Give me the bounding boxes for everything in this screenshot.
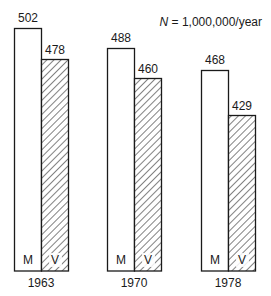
value-label-v-1970: 460 [138, 62, 158, 76]
category-label-1978: 1978 [215, 276, 242, 290]
value-label-m-1963: 502 [18, 11, 38, 25]
bar-m-1963 [15, 29, 42, 272]
value-label-v-1978: 429 [232, 99, 252, 113]
value-label-m-1970: 488 [111, 31, 131, 45]
sample-size-value: = 1,000,000/year [168, 15, 262, 29]
bar-group-1978: 468 429 M V 1978 [202, 53, 256, 290]
bar-v-1978 [229, 116, 256, 272]
sample-size-note: N = 1,000,000/year [160, 15, 262, 29]
category-label-1963: 1963 [28, 276, 55, 290]
series-label-v: V [144, 253, 152, 267]
series-label-v: V [51, 253, 59, 267]
sample-size-symbol: N [160, 15, 169, 29]
bar-v-1970 [135, 79, 162, 272]
series-label-v: V [238, 253, 246, 267]
value-label-v-1963: 478 [45, 43, 65, 57]
series-label-m: M [210, 253, 220, 267]
bar-group-1963: 502 478 M V 1963 [15, 11, 69, 290]
category-label-1970: 1970 [121, 276, 148, 290]
value-label-m-1978: 468 [205, 53, 225, 67]
bar-chart: N = 1,000,000/year 502 478 M V 1963 488 … [0, 0, 271, 296]
bar-group-1970: 488 460 M V 1970 [108, 31, 162, 290]
bar-m-1978 [202, 71, 229, 272]
series-label-m: M [116, 253, 126, 267]
bar-m-1970 [108, 49, 135, 272]
series-label-m: M [23, 253, 33, 267]
bar-v-1963 [42, 60, 69, 272]
